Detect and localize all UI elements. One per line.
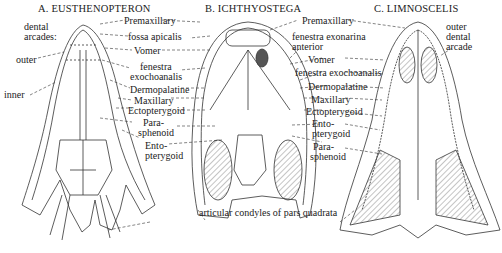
label-fenestra-exochoanalis-b: fenestra exochoanalis xyxy=(295,68,381,78)
label-anterior: anterior xyxy=(292,42,323,52)
label-dermopalatine-a: Dermopalatine xyxy=(130,85,189,95)
label-fossa-apicalis: fossa apicalis xyxy=(128,32,182,42)
label-premaxillary-b: Premaxillary xyxy=(302,16,354,26)
label-ectopterygoid-a: Ectopterygoid xyxy=(128,106,185,116)
label-premaxillary-a: Premaxillary xyxy=(124,16,176,26)
label-outer: outer xyxy=(16,55,37,65)
label-vomer-b: Vomer xyxy=(308,55,334,65)
label-maxillary-b: Maxillary xyxy=(311,95,350,105)
label-pterygoid-a: pterygoid xyxy=(145,151,183,161)
label-sphenoid-b: sphenoid xyxy=(310,152,346,162)
label-vomer-a: Vomer xyxy=(134,46,160,56)
label-exochoanalis-a: exochoanalis xyxy=(130,72,182,82)
panel-title-c: C. LIMNOSCELIS xyxy=(374,3,458,14)
label-ectopterygoid-b: Ectopterygoid xyxy=(306,107,363,117)
eusthenopteron-skull xyxy=(22,25,155,240)
panel-title-a: A. EUSTHENOPTERON xyxy=(38,3,150,14)
caption-articular-condyles: articular condyles of pars quadrata xyxy=(199,208,337,218)
label-arcade-c: arcade xyxy=(446,42,472,52)
limnoscelis-skull xyxy=(340,22,500,238)
label-dermopalatine-b: Dermopalatine xyxy=(308,82,367,92)
label-sphenoid-a: sphenoid xyxy=(138,128,174,138)
label-arcades: arcades: xyxy=(24,32,57,42)
label-pterygoid-b: pterygoid xyxy=(312,129,350,139)
label-inner: inner xyxy=(4,90,25,100)
panel-title-b: B. ICHTHYOSTEGA xyxy=(205,3,301,14)
